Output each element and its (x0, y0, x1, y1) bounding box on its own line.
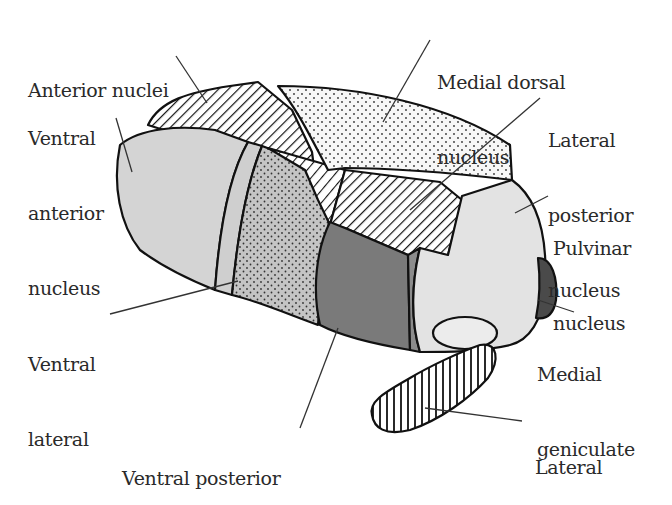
leader-ventral-posterior (300, 328, 338, 428)
lateral-geniculate-region (372, 345, 496, 432)
label-medial-dorsal-nucleus: Medial dorsal nucleus (437, 20, 565, 195)
label-ventral-lateral-nucleus: Ventral lateral nucleus (28, 302, 100, 505)
leader-ventral-lateral (110, 281, 238, 314)
label-ventral-anterior-nucleus: Ventral anterior nucleus (28, 76, 104, 326)
label-lateral-geniculate-nucleus: Lateral geniculate nucleus (535, 405, 633, 505)
label-ventral-posterior-nucleus: Ventral posterior nucleus (122, 416, 280, 505)
